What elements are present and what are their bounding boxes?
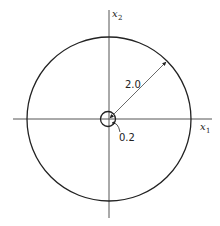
x1-axis-subscript: 1 bbox=[206, 127, 210, 135]
outer-radius-label: 2.0 bbox=[125, 79, 141, 90]
diagram-canvas: 2.0 0.2 x 2 x 1 bbox=[0, 0, 220, 226]
x2-axis-subscript: 2 bbox=[118, 14, 122, 22]
outer-radius-arrow bbox=[110, 62, 166, 118]
inner-radius-label: 0.2 bbox=[119, 132, 135, 143]
